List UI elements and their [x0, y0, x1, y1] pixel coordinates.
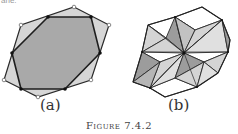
- panel-a-label: (a): [40, 98, 61, 113]
- figure-caption: Figure 7.4.2: [0, 121, 238, 131]
- panel-b-diagram: [133, 7, 230, 97]
- panel-a-diagram: [2, 5, 111, 99]
- figure-panels: [0, 0, 238, 134]
- panel-b-label: (b): [168, 98, 189, 113]
